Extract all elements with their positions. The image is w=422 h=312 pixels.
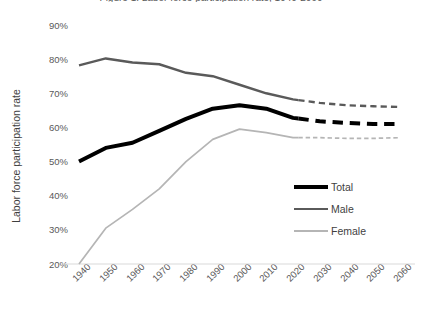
series-line-female (79, 129, 298, 264)
legend-label-total: Total (331, 181, 353, 193)
legend-swatch-male-icon (294, 208, 328, 210)
series-line-male-forecast (298, 100, 400, 107)
series-line-total (79, 105, 298, 161)
legend-swatch-female-icon (294, 230, 328, 232)
series-line-total-forecast (298, 119, 400, 124)
legend-item-male[interactable]: Male (294, 198, 414, 220)
legend-label-female: Female (331, 225, 366, 237)
legend-swatch-total-icon (294, 185, 328, 189)
legend-item-female[interactable]: Female (294, 220, 414, 242)
series-line-male (79, 58, 298, 100)
chart-legend: Total Male Female (294, 176, 414, 242)
legend-item-total[interactable]: Total (294, 176, 414, 198)
series-line-female-forecast (298, 138, 400, 139)
chart-container: Figure 1. Labor force participation rate… (0, 0, 422, 312)
plot-area (0, 0, 422, 312)
legend-label-male: Male (331, 203, 354, 215)
